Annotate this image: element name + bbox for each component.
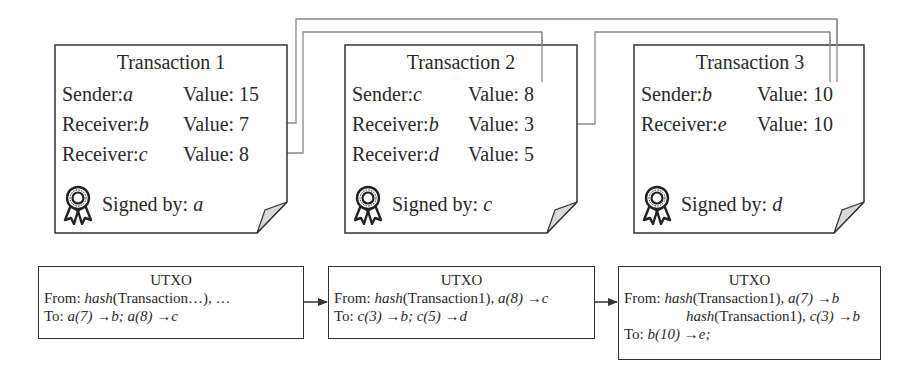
utxo-to: To: b(10) →e; [619,325,880,343]
utxo-box-2: UTXO From: hash(Transaction1), a(8) →c T… [328,266,595,339]
award-ribbon-icon [641,185,673,225]
utxo-from: From: hash(Transaction…), … [39,289,303,307]
utxo-to: To: a(7) →b; a(8) →c [39,307,303,325]
utxo-title: UTXO [619,271,880,289]
utxo-box-1: UTXO From: hash(Transaction…), … To: a(7… [38,266,304,339]
transaction-title: Transaction 1 [55,51,287,74]
utxo-from: From: hash(Transaction1), a(8) →c [329,289,594,307]
utxo-box-3: UTXO From: hash(Transaction1), a(7) →b h… [618,266,881,360]
signed-by: Signed by: c [392,193,492,216]
utxo-title: UTXO [39,271,303,289]
tx-row-receiver: Receiver: e Value: 10 [641,113,727,136]
tx-row-sender: Sender: a Value: 15 [62,83,133,106]
tx-row-receiver: Receiver: b Value: 7 [62,113,149,136]
transaction-title: Transaction 2 [345,51,577,74]
transaction-card-3: Transaction 3 Sender: b Value: 10 Receiv… [634,45,866,233]
utxo-title: UTXO [329,271,594,289]
signed-by: Signed by: a [102,193,203,216]
tx-row-receiver: Receiver: d Value: 5 [352,143,439,166]
tx-row-receiver: Receiver: c Value: 8 [62,143,148,166]
award-ribbon-icon [62,185,94,225]
tx-row-sender: Sender: c Value: 8 [352,83,422,106]
tx-row-receiver: Receiver: b Value: 3 [352,113,439,136]
transaction-title: Transaction 3 [634,51,866,74]
transaction-card-2: Transaction 2 Sender: c Value: 8 Receive… [345,45,577,233]
signed-by: Signed by: d [681,193,782,216]
utxo-from: From: hash(Transaction1), a(7) →b [619,289,880,307]
utxo-to: To: c(3) →b; c(5) →d [329,307,594,325]
tx-row-sender: Sender: b Value: 10 [641,83,712,106]
utxo-from-continued: hash(Transaction1), c(3) →b [619,307,880,325]
transaction-card-1: Transaction 1 Sender: a Value: 15 Receiv… [55,45,287,233]
award-ribbon-icon [352,185,384,225]
